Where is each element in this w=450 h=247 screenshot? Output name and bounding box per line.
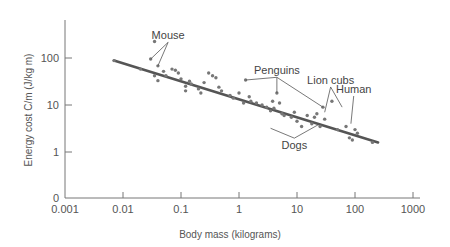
x-tick-label: 10: [291, 203, 303, 215]
data-point: [351, 138, 354, 141]
data-point: [217, 85, 220, 88]
x-tick-label: 100: [346, 203, 364, 215]
annotation-leader-line: [294, 124, 320, 138]
data-point: [371, 141, 374, 144]
x-axis-title: Body mass (kilograms): [179, 229, 281, 240]
data-point: [265, 105, 268, 108]
y-tick-label: 0: [53, 192, 59, 204]
data-point: [248, 95, 251, 98]
annotation-label-human: Human: [336, 83, 371, 95]
data-point: [300, 125, 303, 128]
y-axis-title: Energy cost C/m (J/kg m): [23, 54, 34, 167]
data-point: [214, 76, 217, 79]
data-point: [174, 69, 177, 72]
data-point: [228, 94, 231, 97]
data-point: [295, 120, 298, 123]
data-point: [112, 59, 115, 62]
energy-cost-chart: 0.0010.010.111010010000110100 MousePengu…: [0, 0, 450, 247]
data-point: [260, 103, 263, 106]
data-point: [348, 136, 351, 139]
data-point: [318, 125, 321, 128]
x-tick-label: 0.1: [173, 203, 188, 215]
data-point: [211, 74, 214, 77]
data-point: [269, 109, 272, 112]
data-point: [249, 100, 252, 103]
data-point: [323, 117, 326, 120]
data-point: [197, 87, 200, 90]
annotation-label-mouse: Mouse: [152, 29, 185, 41]
annotation-leader-line: [351, 96, 354, 124]
data-point: [272, 107, 275, 110]
data-point: [278, 101, 281, 104]
data-point: [184, 85, 187, 88]
y-tick-label: 1: [53, 146, 59, 158]
data-point: [242, 101, 245, 104]
data-point: [202, 81, 205, 84]
data-point: [344, 125, 347, 128]
annotation-label-penguins: Penguins: [254, 64, 300, 76]
chart-svg: 0.0010.010.111010010000110100 MousePengu…: [0, 0, 450, 247]
annotation-leader-line: [325, 87, 331, 112]
data-point: [290, 116, 293, 119]
data-point: [156, 64, 159, 67]
y-tick-label: 10: [47, 99, 59, 111]
data-point: [179, 77, 182, 80]
data-point: [207, 71, 210, 74]
annotations: MousePenguinsLion cubsHumanDogs: [151, 29, 372, 151]
data-point: [353, 128, 356, 131]
annotation-leader-line: [271, 128, 295, 138]
axes: 0.0010.010.111010010000110100: [41, 20, 426, 215]
x-tick-label: 0.01: [112, 203, 133, 215]
x-tick-label: 1000: [401, 203, 425, 215]
data-point: [190, 82, 193, 85]
data-point: [282, 114, 285, 117]
data-point: [177, 71, 180, 74]
data-point: [232, 96, 235, 99]
data-point: [153, 74, 156, 77]
y-tick-label: 100: [41, 52, 59, 64]
data-point: [199, 91, 202, 94]
annotation-leader-line: [151, 42, 168, 59]
data-point: [164, 74, 167, 77]
data-point: [162, 70, 165, 73]
x-tick-label: 0.001: [51, 203, 79, 215]
data-point: [170, 67, 173, 70]
data-point: [330, 100, 333, 103]
data-point: [310, 122, 313, 125]
data-point: [271, 100, 274, 103]
data-point: [139, 67, 142, 70]
data-point: [306, 114, 309, 117]
data-point: [156, 79, 159, 82]
annotation-leader-line: [246, 77, 277, 80]
data-point: [293, 111, 296, 114]
annotation-label-dogs: Dogs: [282, 139, 308, 151]
data-point: [184, 89, 187, 92]
data-point: [315, 112, 318, 115]
x-tick-label: 1: [236, 203, 242, 215]
annotation-leader-line: [158, 42, 168, 66]
data-point: [255, 101, 258, 104]
data-point: [237, 91, 240, 94]
data-point: [313, 116, 316, 119]
data-point: [220, 89, 223, 92]
data-point: [356, 132, 359, 135]
data-point: [336, 128, 339, 131]
